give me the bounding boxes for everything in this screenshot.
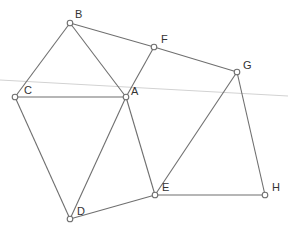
point-label-c: C (24, 84, 32, 96)
edge-gh (237, 72, 265, 195)
point-label-a: A (131, 85, 139, 97)
faint-background-line (0, 80, 288, 96)
geometry-diagram: ABCDEFGH (0, 0, 288, 228)
point-h[interactable] (262, 192, 268, 198)
point-f[interactable] (151, 44, 157, 50)
edge-fg (154, 47, 237, 72)
point-e[interactable] (152, 192, 158, 198)
edges-group (15, 23, 265, 219)
point-a[interactable] (123, 94, 129, 100)
point-label-f: F (161, 33, 168, 45)
point-label-d: D (77, 205, 85, 217)
points-group (12, 20, 268, 222)
edge-cd (15, 97, 70, 219)
point-label-b: B (75, 8, 82, 20)
edge-bf (70, 23, 154, 47)
point-c[interactable] (12, 94, 18, 100)
point-label-h: H (272, 181, 280, 193)
point-d[interactable] (67, 216, 73, 222)
point-g[interactable] (234, 69, 240, 75)
edge-ae (126, 97, 155, 195)
point-label-g: G (243, 59, 252, 71)
point-label-e: E (162, 181, 169, 193)
point-b[interactable] (67, 20, 73, 26)
edge-ad (70, 97, 126, 219)
